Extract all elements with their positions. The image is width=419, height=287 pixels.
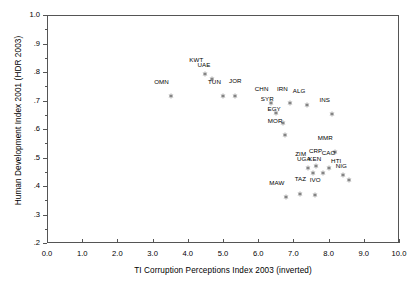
y-tick-mark xyxy=(43,72,47,73)
data-point-label: INS xyxy=(319,97,330,103)
x-tick-mark xyxy=(117,239,118,243)
y-tick-mark xyxy=(45,58,48,59)
x-tick-label: 10.0 xyxy=(385,249,413,258)
data-point-label: CAO xyxy=(322,150,336,156)
y-tick-mark xyxy=(45,172,48,173)
data-point-marker-icon xyxy=(232,85,238,91)
y-tick-mark xyxy=(45,29,48,30)
data-point-marker-icon xyxy=(283,186,289,192)
x-tick-mark xyxy=(399,239,400,243)
y-tick-mark xyxy=(43,243,47,244)
x-tick-mark xyxy=(47,239,48,243)
y-tick-label: .6 xyxy=(34,124,40,133)
y-tick-label: .4 xyxy=(34,181,40,190)
data-point-label: ALG xyxy=(293,88,306,94)
data-point-marker-icon xyxy=(304,94,310,100)
x-tick-label: 9.0 xyxy=(350,249,378,258)
x-tick-mark xyxy=(188,239,189,243)
data-point-label: EGY xyxy=(267,106,280,112)
data-point-marker-icon xyxy=(209,68,215,74)
data-point-label: CRP xyxy=(309,148,322,154)
data-point-marker-icon xyxy=(332,141,338,147)
y-tick-mark xyxy=(43,129,47,130)
y-tick-mark xyxy=(43,44,47,45)
data-point-marker-icon xyxy=(220,85,226,91)
data-point-marker-icon xyxy=(329,103,335,109)
y-tick-mark xyxy=(43,186,47,187)
data-point-label: IRN xyxy=(277,86,288,92)
data-point-label: UAE xyxy=(197,62,210,68)
data-point-label: TUN xyxy=(208,79,221,85)
data-point-label: MAW xyxy=(269,180,284,186)
x-tick-mark xyxy=(364,239,365,243)
data-point-label: KEN xyxy=(308,156,321,162)
y-tick-label: .7 xyxy=(34,96,40,105)
y-tick-mark xyxy=(45,115,48,116)
data-point-marker-icon xyxy=(297,183,303,189)
x-tick-mark xyxy=(329,239,330,243)
y-axis-title: Human Development Index 2001 (HDR 2003) xyxy=(14,11,23,231)
x-tick-mark xyxy=(153,239,154,243)
data-point-label: IVO xyxy=(310,177,321,183)
y-tick-label: .8 xyxy=(34,67,40,76)
y-tick-mark xyxy=(45,86,48,87)
x-tick-label: 0.0 xyxy=(33,249,61,258)
x-tick-label: 2.0 xyxy=(103,249,131,258)
x-tick-mark xyxy=(223,239,224,243)
data-point-label: MMR xyxy=(318,135,333,141)
y-tick-mark xyxy=(45,143,48,144)
y-tick-mark xyxy=(43,15,47,16)
y-tick-label: 1.0 xyxy=(29,10,40,19)
x-tick-label: 4.0 xyxy=(174,249,202,258)
data-point-label: SYR xyxy=(261,96,274,102)
scatter-chart-figure: Human Development Index 2001 (HDR 2003) … xyxy=(0,0,419,287)
data-point-marker-icon xyxy=(312,184,318,190)
x-tick-mark xyxy=(82,239,83,243)
data-point-label: MOR xyxy=(268,118,283,124)
x-axis-title: TI Corruption Perceptions Index 2003 (in… xyxy=(47,266,399,275)
x-tick-mark xyxy=(293,239,294,243)
data-point-label: OMN xyxy=(154,79,169,85)
data-point-label: JOR xyxy=(229,78,242,84)
x-tick-label: 1.0 xyxy=(68,249,96,258)
data-point-label: TAZ xyxy=(295,176,307,182)
x-tick-label: 5.0 xyxy=(209,249,237,258)
data-point-marker-icon xyxy=(346,169,352,175)
y-tick-mark xyxy=(45,229,48,230)
x-tick-label: 6.0 xyxy=(244,249,272,258)
x-tick-label: 7.0 xyxy=(279,249,307,258)
y-tick-mark xyxy=(43,158,47,159)
y-tick-label: .2 xyxy=(34,238,40,247)
y-tick-label: .5 xyxy=(34,153,40,162)
y-tick-mark xyxy=(43,101,47,102)
y-tick-label: .3 xyxy=(34,210,40,219)
x-tick-label: 8.0 xyxy=(315,249,343,258)
y-tick-mark xyxy=(45,200,48,201)
data-point-label: CHN xyxy=(255,86,269,92)
x-tick-mark xyxy=(258,239,259,243)
x-tick-label: 3.0 xyxy=(139,249,167,258)
data-point-label: NIG xyxy=(336,163,347,169)
y-tick-label: .9 xyxy=(34,39,40,48)
y-tick-mark xyxy=(43,215,47,216)
plot-area xyxy=(47,15,399,243)
data-point-marker-icon xyxy=(168,85,174,91)
data-point-marker-icon xyxy=(282,124,288,130)
data-point-marker-icon xyxy=(320,162,326,168)
